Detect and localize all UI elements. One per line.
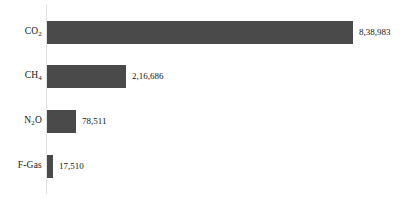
category-label-co2: CO2 [0,27,42,37]
bar-track: 78,511 [47,109,106,133]
category-label-co2-main: CO [25,26,39,36]
category-label-ch4: CH4 [0,71,42,81]
bar-track: 8,38,983 [47,20,391,44]
bar-track: 17,510 [47,154,84,178]
category-label-n2o-sub: 2 [31,119,35,127]
category-label-n2o-suffix: O [35,115,42,125]
bar-fill-fgas[interactable] [47,155,53,178]
category-label-fgas-main: F-Gas [18,160,42,170]
bar-value-fgas: 17,510 [59,162,84,171]
bar-row: F-Gas 17,510 [0,154,408,178]
category-label-fgas: F-Gas [0,161,42,171]
bar-fill-ch4[interactable] [47,65,126,88]
bar-track: 2,16,686 [47,64,164,88]
bar-value-ch4: 2,16,686 [132,72,164,81]
bar-chart: CO2 8,38,983 CH4 2,16,686 N2O 78,511 F-G… [0,0,408,202]
category-label-ch4-main: CH [25,70,39,80]
bar-fill-co2[interactable] [47,21,353,44]
bar-row: CH4 2,16,686 [0,64,408,88]
category-label-n2o: N2O [0,116,42,126]
bar-value-co2: 8,38,983 [359,28,391,37]
bar-row: CO2 8,38,983 [0,20,408,44]
bar-fill-n2o[interactable] [47,110,76,133]
category-label-ch4-sub: 4 [38,74,42,82]
bar-row: N2O 78,511 [0,109,408,133]
bar-value-n2o: 78,511 [82,117,106,126]
category-label-co2-sub: 2 [38,30,42,38]
